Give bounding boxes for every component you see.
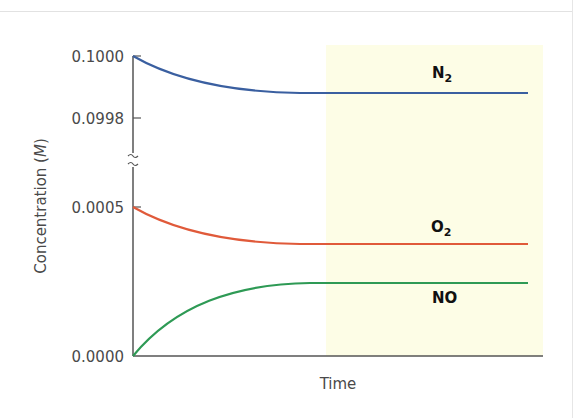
concentration-time-chart: 0.1000 0.0998 0.0005 0.0000 Time Concent… [0,0,578,418]
series-label-no: NO [432,289,457,307]
equilibrium-shaded-region [326,45,543,356]
y-tick-label-0.0000: 0.0000 [72,348,125,366]
y-tick-label-0.1000: 0.1000 [72,48,125,66]
y-tick-label-0.0998: 0.0998 [72,110,125,128]
x-axis-title: Time [319,375,357,393]
y-tick-label-0.0005: 0.0005 [72,199,125,217]
y-axis-title: Concentration (M) [32,138,50,274]
